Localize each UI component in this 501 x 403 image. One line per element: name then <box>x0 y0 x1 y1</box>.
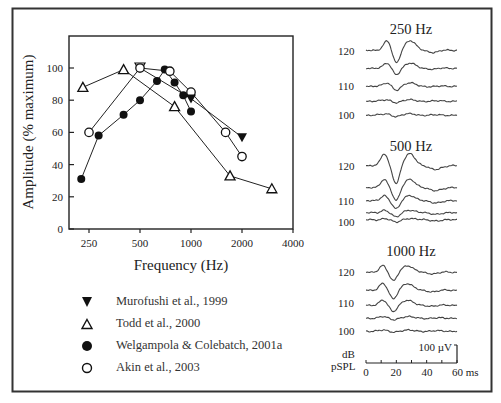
x-tick-label: 4000 <box>282 237 305 249</box>
legend-label: Murofushi et al., 1999 <box>116 294 227 309</box>
filled-circle-marker <box>179 91 187 99</box>
y-axis-label: Amplitude (% maximum) <box>20 55 37 210</box>
x-tick-label: 250 <box>81 237 98 249</box>
open-circle-marker <box>166 67 174 75</box>
filled-circle-marker <box>171 78 179 86</box>
x-tick-label: 500 <box>132 237 149 249</box>
open-up-triangle-icon <box>80 317 94 331</box>
x-axis-label: Frequency (Hz) <box>134 257 229 274</box>
db-label-1000-120: 120 <box>338 266 355 278</box>
db-label-250-120: 120 <box>338 45 355 57</box>
figure: 020406080100 250500100020004000 Amplitud… <box>0 0 501 403</box>
open-circle-marker <box>85 128 93 136</box>
y-tick-label: 20 <box>52 191 64 203</box>
panel-title-250hz: 250 Hz <box>390 21 433 37</box>
scale-bar-label: 100 µV <box>418 341 452 353</box>
open-circle-icon <box>80 361 94 375</box>
time-tick-60: 60 ms <box>452 366 479 378</box>
legend-label: Akin et al., 2003 <box>116 360 200 375</box>
filled-circle-marker <box>95 132 103 140</box>
y-tick-label: 100 <box>47 62 64 74</box>
db-label-500-110: 110 <box>338 195 355 207</box>
filled-circle-icon <box>80 339 94 353</box>
y-tick-label: 40 <box>52 159 64 171</box>
open-circle-marker <box>238 152 246 160</box>
x-tick-label: 2000 <box>231 237 254 249</box>
x-tick-label: 1000 <box>180 237 203 249</box>
filled-down-triangle-icon <box>80 295 94 309</box>
filled-circle-marker <box>153 77 161 85</box>
filled-circle-marker <box>187 107 195 115</box>
y-tick-label: 80 <box>52 94 64 106</box>
time-tick-0: 0 <box>363 366 369 378</box>
db-label-1000-100: 100 <box>338 325 355 337</box>
open-circle-marker <box>136 64 144 72</box>
filled-circle-marker <box>120 111 128 119</box>
db-unit-label: dB <box>342 348 355 360</box>
db-label-500-120: 120 <box>338 160 355 172</box>
db-label-250-100: 100 <box>338 109 355 121</box>
open-circle-marker <box>221 128 229 136</box>
db-label-500-100: 100 <box>338 216 355 228</box>
filled-circle-marker <box>77 175 85 183</box>
panel-title-1000hz: 1000 Hz <box>386 243 436 259</box>
legend-label: Todd et al., 2000 <box>116 316 200 331</box>
y-tick-label: 0 <box>58 223 64 235</box>
y-tick-label: 60 <box>52 126 64 138</box>
filled-circle-marker <box>136 96 144 104</box>
legend-label: Welgampola & Colebatch, 2001a <box>116 338 282 353</box>
pspl-unit-label: pSPL <box>331 360 356 372</box>
time-tick-20: 20 <box>391 366 403 378</box>
time-tick-40: 40 <box>422 366 434 378</box>
db-label-1000-110: 110 <box>338 297 355 309</box>
panel-title-500hz: 500 Hz <box>390 138 433 154</box>
db-label-250-110: 110 <box>338 80 355 92</box>
